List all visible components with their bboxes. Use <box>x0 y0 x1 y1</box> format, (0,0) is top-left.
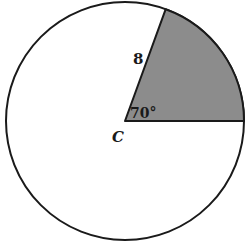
radius-label: 8 <box>133 50 143 68</box>
circle-diagram: 8 70° C <box>0 0 251 246</box>
angle-label: 70° <box>130 105 156 121</box>
center-label: C <box>112 128 124 146</box>
